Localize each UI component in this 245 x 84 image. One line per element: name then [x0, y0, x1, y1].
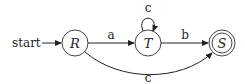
state-s: S — [209, 30, 235, 56]
state-r: R — [62, 30, 88, 56]
transition-r-t-label: a — [107, 28, 114, 42]
state-t-label: T — [144, 36, 154, 51]
state-t: T — [135, 30, 161, 56]
transition-t-s-label: b — [181, 28, 189, 42]
transition-t-t-label: c — [145, 1, 152, 15]
transition-t-t-loop — [142, 18, 155, 31]
state-s-label: S — [218, 36, 227, 51]
start-label: start — [12, 36, 41, 50]
state-r-label: R — [69, 36, 80, 51]
transition-r-s-label: c — [145, 71, 152, 84]
automaton-diagram: start R T S a c b c — [0, 0, 245, 84]
